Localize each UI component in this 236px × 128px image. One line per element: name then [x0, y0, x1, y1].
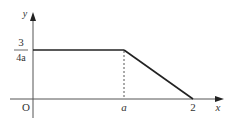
x-tick-a: a: [121, 101, 127, 113]
x-tick-2: 2: [190, 101, 196, 113]
y-axis-label: y: [22, 8, 28, 19]
decreasing-segment: [124, 50, 193, 99]
y-axis-arrow-icon: [30, 12, 36, 21]
y-value-numerator: 3: [18, 36, 24, 48]
y-value-denominator: 4a: [16, 52, 26, 63]
x-axis-label: x: [215, 101, 221, 113]
function-graph: 3 4a y x O a 2: [0, 0, 236, 128]
origin-label: O: [22, 101, 30, 113]
